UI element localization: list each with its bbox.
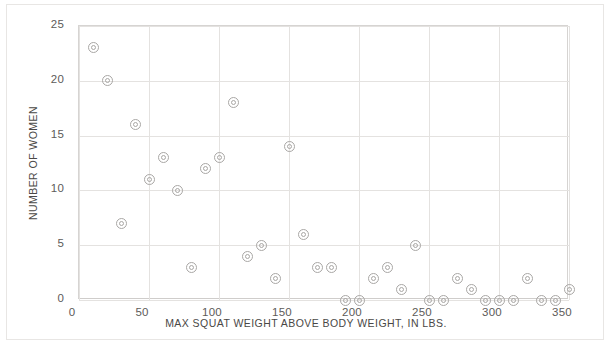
marker-inner-ring <box>287 144 292 149</box>
marker-inner-ring <box>343 298 348 303</box>
data-point <box>242 251 253 262</box>
data-point <box>396 284 407 295</box>
data-point <box>228 97 239 108</box>
data-point <box>256 240 267 251</box>
data-point <box>508 295 519 306</box>
x-axis-title: MAX SQUAT WEIGHT ABOVE BODY WEIGHT, IN L… <box>0 317 612 329</box>
data-point <box>284 141 295 152</box>
data-point <box>494 295 505 306</box>
y-axis-title: NUMBER OF WOMEN <box>27 88 39 238</box>
gridline-x-250 <box>429 26 430 300</box>
data-point <box>522 273 533 284</box>
gridline-x-150 <box>289 26 290 300</box>
data-point <box>130 119 141 130</box>
data-point <box>186 262 197 273</box>
data-point <box>312 262 323 273</box>
marker-inner-ring <box>273 276 278 281</box>
marker-inner-ring <box>231 100 236 105</box>
data-point <box>158 152 169 163</box>
data-point <box>298 229 309 240</box>
plot-area <box>78 25 568 299</box>
data-point <box>116 218 127 229</box>
marker-inner-ring <box>357 298 362 303</box>
gridline-y-5 <box>79 245 569 246</box>
marker-inner-ring <box>511 298 516 303</box>
gridline-y-25 <box>79 26 569 27</box>
gridline-y-10 <box>79 190 569 191</box>
marker-inner-ring <box>427 298 432 303</box>
data-point <box>550 295 561 306</box>
y-tick-label-20: 20 <box>24 73 64 85</box>
marker-inner-ring <box>371 276 376 281</box>
marker-inner-ring <box>217 155 222 160</box>
data-point <box>536 295 547 306</box>
gridline-y-15 <box>79 136 569 137</box>
data-point <box>172 185 183 196</box>
marker-inner-ring <box>301 232 306 237</box>
data-point <box>200 163 211 174</box>
gridline-x-300 <box>499 26 500 300</box>
data-point <box>326 262 337 273</box>
gridline-x-0 <box>79 26 80 300</box>
data-point <box>382 262 393 273</box>
marker-inner-ring <box>119 221 124 226</box>
marker-inner-ring <box>469 287 474 292</box>
marker-inner-ring <box>245 254 250 259</box>
marker-inner-ring <box>441 298 446 303</box>
data-point <box>564 284 575 295</box>
data-point <box>424 295 435 306</box>
data-point <box>480 295 491 306</box>
marker-inner-ring <box>315 265 320 270</box>
data-point <box>340 295 351 306</box>
marker-inner-ring <box>525 276 530 281</box>
data-point <box>368 273 379 284</box>
data-point <box>438 295 449 306</box>
marker-inner-ring <box>413 243 418 248</box>
gridline-x-200 <box>359 26 360 300</box>
marker-inner-ring <box>567 287 572 292</box>
data-point <box>270 273 281 284</box>
y-tick-label-5: 5 <box>24 237 64 249</box>
marker-inner-ring <box>329 265 334 270</box>
marker-inner-ring <box>385 265 390 270</box>
gridline-x-350 <box>569 26 570 300</box>
data-point <box>144 174 155 185</box>
y-tick-label-25: 25 <box>24 18 64 30</box>
data-point <box>214 152 225 163</box>
gridline-y-20 <box>79 81 569 82</box>
marker-inner-ring <box>161 155 166 160</box>
marker-inner-ring <box>399 287 404 292</box>
marker-inner-ring <box>189 265 194 270</box>
marker-inner-ring <box>175 188 180 193</box>
y-tick-label-0: 0 <box>24 292 64 304</box>
marker-inner-ring <box>147 177 152 182</box>
marker-inner-ring <box>203 166 208 171</box>
gridline-x-50 <box>149 26 150 300</box>
figure-frame: 050100150200250300350 0510152025 NUMBER … <box>6 4 604 340</box>
data-point <box>88 42 99 53</box>
data-point <box>410 240 421 251</box>
marker-inner-ring <box>259 243 264 248</box>
marker-inner-ring <box>483 298 488 303</box>
marker-inner-ring <box>497 298 502 303</box>
marker-inner-ring <box>539 298 544 303</box>
marker-inner-ring <box>553 298 558 303</box>
marker-inner-ring <box>105 78 110 83</box>
data-point <box>452 273 463 284</box>
data-point <box>102 75 113 86</box>
marker-inner-ring <box>91 45 96 50</box>
marker-inner-ring <box>133 122 138 127</box>
marker-inner-ring <box>455 276 460 281</box>
data-point <box>466 284 477 295</box>
data-point <box>354 295 365 306</box>
scatter-plot-figure: 050100150200250300350 0510152025 NUMBER … <box>0 0 612 349</box>
